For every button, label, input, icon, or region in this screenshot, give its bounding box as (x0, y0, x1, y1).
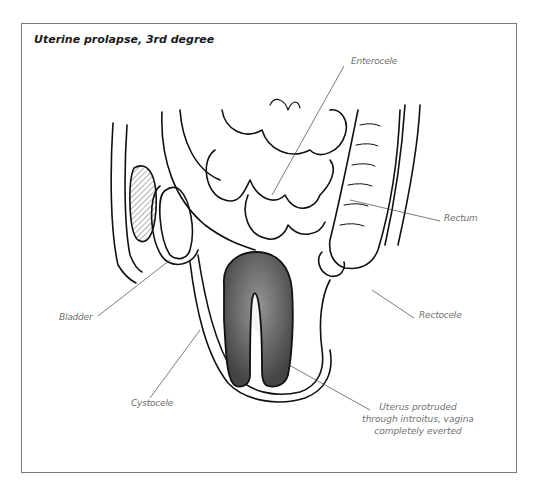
label-uterus-caption: Uterus protruded through introitus, vagi… (348, 401, 488, 437)
caption-line: completely everted (348, 425, 488, 437)
caption-line: Uterus protruded (348, 401, 488, 413)
caption-line: through introitus, vagina (348, 413, 488, 425)
rectum (330, 110, 400, 268)
bladder (160, 187, 193, 258)
label-bladder: Bladder (59, 312, 92, 322)
small-bowel (222, 110, 346, 155)
label-enterocele: Enterocele (351, 56, 397, 66)
label-rectum: Rectum (444, 213, 478, 223)
label-cystocele: Cystocele (131, 398, 173, 408)
label-rectocele: Rectocele (419, 310, 462, 320)
